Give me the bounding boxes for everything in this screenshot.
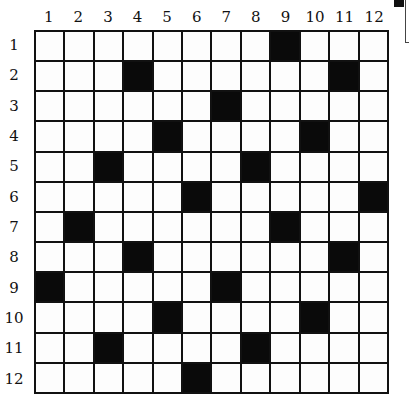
grid-cell[interactable] xyxy=(360,153,387,181)
grid-cell[interactable] xyxy=(301,334,328,362)
grid-cell[interactable] xyxy=(154,153,181,181)
grid-cell[interactable] xyxy=(360,303,387,331)
grid-cell[interactable] xyxy=(124,92,151,120)
grid-cell[interactable] xyxy=(183,122,210,150)
grid-cell[interactable] xyxy=(95,62,122,90)
grid-cell[interactable] xyxy=(154,62,181,90)
grid-cell[interactable] xyxy=(242,62,269,90)
grid-cell[interactable] xyxy=(271,122,298,150)
grid-cell[interactable] xyxy=(183,243,210,271)
grid-cell[interactable] xyxy=(242,364,269,392)
grid-cell[interactable] xyxy=(65,334,92,362)
grid-cell[interactable] xyxy=(330,213,357,241)
grid-cell[interactable] xyxy=(301,32,328,60)
grid-cell[interactable] xyxy=(242,183,269,211)
grid-cell[interactable] xyxy=(242,243,269,271)
grid-cell[interactable] xyxy=(95,213,122,241)
grid-cell[interactable] xyxy=(183,62,210,90)
grid-cell[interactable] xyxy=(360,62,387,90)
grid-cell[interactable] xyxy=(301,243,328,271)
grid-cell[interactable] xyxy=(242,213,269,241)
grid-cell[interactable] xyxy=(154,92,181,120)
grid-cell[interactable] xyxy=(65,153,92,181)
grid-cell[interactable] xyxy=(36,62,63,90)
grid-cell[interactable] xyxy=(212,303,239,331)
grid-cell[interactable] xyxy=(271,183,298,211)
grid-cell[interactable] xyxy=(330,92,357,120)
grid-cell[interactable] xyxy=(95,243,122,271)
grid-cell[interactable] xyxy=(301,92,328,120)
grid-cell[interactable] xyxy=(65,62,92,90)
grid-cell[interactable] xyxy=(124,153,151,181)
grid-cell[interactable] xyxy=(212,334,239,362)
grid-cell[interactable] xyxy=(95,122,122,150)
grid-cell[interactable] xyxy=(242,32,269,60)
grid-cell[interactable] xyxy=(360,364,387,392)
grid-cell[interactable] xyxy=(301,62,328,90)
grid-cell[interactable] xyxy=(154,334,181,362)
grid-cell[interactable] xyxy=(271,153,298,181)
grid-cell[interactable] xyxy=(36,122,63,150)
grid-cell[interactable] xyxy=(124,213,151,241)
grid-cell[interactable] xyxy=(124,334,151,362)
grid-cell[interactable] xyxy=(95,364,122,392)
grid-cell[interactable] xyxy=(330,153,357,181)
grid-cell[interactable] xyxy=(271,364,298,392)
grid-cell[interactable] xyxy=(330,183,357,211)
grid-cell[interactable] xyxy=(301,273,328,301)
grid-cell[interactable] xyxy=(124,32,151,60)
grid-cell[interactable] xyxy=(65,32,92,60)
grid-cell[interactable] xyxy=(271,62,298,90)
grid-cell[interactable] xyxy=(65,183,92,211)
grid-cell[interactable] xyxy=(95,92,122,120)
grid-cell[interactable] xyxy=(301,153,328,181)
grid-cell[interactable] xyxy=(183,334,210,362)
grid-cell[interactable] xyxy=(360,273,387,301)
grid-cell[interactable] xyxy=(36,334,63,362)
grid-cell[interactable] xyxy=(242,303,269,331)
grid-cell[interactable] xyxy=(330,122,357,150)
grid-cell[interactable] xyxy=(65,273,92,301)
grid-cell[interactable] xyxy=(271,273,298,301)
grid-cell[interactable] xyxy=(301,183,328,211)
grid-cell[interactable] xyxy=(95,32,122,60)
grid-cell[interactable] xyxy=(301,213,328,241)
grid-cell[interactable] xyxy=(212,243,239,271)
grid-cell[interactable] xyxy=(183,92,210,120)
grid-cell[interactable] xyxy=(154,273,181,301)
grid-cell[interactable] xyxy=(36,153,63,181)
grid-cell[interactable] xyxy=(212,122,239,150)
grid-cell[interactable] xyxy=(330,303,357,331)
grid-cell[interactable] xyxy=(124,303,151,331)
grid-cell[interactable] xyxy=(212,364,239,392)
grid-cell[interactable] xyxy=(183,32,210,60)
grid-cell[interactable] xyxy=(212,62,239,90)
grid-cell[interactable] xyxy=(330,273,357,301)
grid-cell[interactable] xyxy=(360,122,387,150)
grid-cell[interactable] xyxy=(301,364,328,392)
grid-cell[interactable] xyxy=(271,92,298,120)
grid-cell[interactable] xyxy=(154,32,181,60)
grid-cell[interactable] xyxy=(212,213,239,241)
grid-cell[interactable] xyxy=(360,243,387,271)
grid-cell[interactable] xyxy=(36,92,63,120)
grid-cell[interactable] xyxy=(124,273,151,301)
grid-cell[interactable] xyxy=(36,183,63,211)
grid-cell[interactable] xyxy=(271,303,298,331)
grid-cell[interactable] xyxy=(271,334,298,362)
grid-cell[interactable] xyxy=(154,364,181,392)
grid-cell[interactable] xyxy=(360,32,387,60)
grid-cell[interactable] xyxy=(65,303,92,331)
grid-cell[interactable] xyxy=(36,303,63,331)
grid-cell[interactable] xyxy=(124,364,151,392)
grid-cell[interactable] xyxy=(65,243,92,271)
grid-cell[interactable] xyxy=(212,32,239,60)
grid-cell[interactable] xyxy=(330,334,357,362)
grid-cell[interactable] xyxy=(154,183,181,211)
grid-cell[interactable] xyxy=(95,183,122,211)
grid-cell[interactable] xyxy=(183,273,210,301)
grid-cell[interactable] xyxy=(95,303,122,331)
grid-cell[interactable] xyxy=(95,273,122,301)
grid-cell[interactable] xyxy=(65,122,92,150)
grid-cell[interactable] xyxy=(65,92,92,120)
